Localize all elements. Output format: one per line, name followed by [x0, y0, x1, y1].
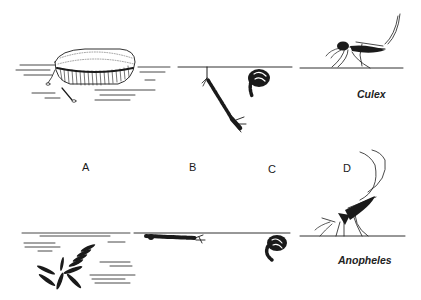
stage-label-c: C [268, 164, 276, 175]
species-label-culex: Culex [357, 89, 386, 100]
culex-egg-raft-icon [46, 49, 135, 102]
culex-adult-icon [326, 14, 400, 68]
species-label-anopheles: Anopheles [338, 255, 392, 266]
anopheles-eggs-icon [36, 243, 96, 290]
culex-larva-icon [202, 67, 246, 132]
anopheles-pupa-icon [267, 235, 287, 260]
stage-label-b: B [189, 162, 196, 173]
culex-pupa-icon [248, 69, 270, 96]
stage-label-d: D [343, 163, 351, 174]
stage-label-a: A [82, 162, 89, 173]
mosquito-lifecycle-figure: A B C D Culex Anopheles [0, 0, 421, 300]
anopheles-larva-icon [146, 234, 205, 243]
